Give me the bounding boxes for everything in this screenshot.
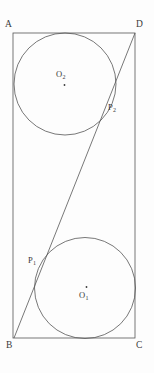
- geometry-figure: A D B C O2 O1 P2 P1: [0, 0, 154, 373]
- center-dot-o2: [64, 84, 66, 86]
- vertex-label-b: B: [6, 341, 12, 351]
- tangent-point-label-p2: P2: [108, 103, 116, 112]
- o2-subscript: 2: [62, 74, 65, 80]
- vertex-label-d: D: [136, 20, 143, 30]
- diagonal-bd: [14, 33, 135, 338]
- vertex-label-a: A: [5, 20, 12, 30]
- circle-o1: [35, 238, 136, 339]
- circle-center-label-o2: O2: [56, 70, 65, 79]
- circle-center-label-o1: O1: [79, 291, 88, 300]
- p1-subscript: 1: [33, 260, 36, 266]
- p2-subscript: 2: [113, 107, 116, 113]
- tangent-point-label-p1: P1: [28, 256, 36, 265]
- o1-subscript: 1: [85, 295, 88, 301]
- center-dot-o1: [86, 286, 88, 288]
- figure-canvas: [0, 0, 154, 373]
- vertex-label-c: C: [136, 341, 142, 351]
